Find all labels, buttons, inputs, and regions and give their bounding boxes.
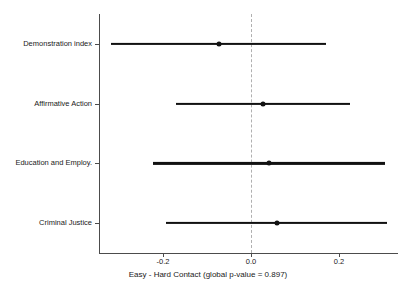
x-axis-spine [99, 253, 398, 254]
y-axis-tick [95, 223, 99, 224]
x-axis-tick-label: 0.2 [334, 258, 344, 266]
y-axis-tick [95, 44, 99, 45]
y-axis-category-label: Education and Employ. [15, 159, 92, 167]
point-estimate-marker [275, 221, 280, 226]
y-axis-category-label: Affirmative Action [34, 100, 92, 108]
y-axis-category-label: Criminal Justice [39, 219, 92, 227]
y-axis-tick [95, 104, 99, 105]
point-estimate-marker [217, 41, 222, 46]
x-axis-tick-label: -0.2 [157, 258, 170, 266]
y-axis-tick [95, 163, 99, 164]
y-axis-category-label: Demonstration index [23, 40, 92, 48]
plot-area [99, 14, 398, 253]
zero-reference-line [251, 14, 252, 253]
point-estimate-marker [260, 101, 265, 106]
x-axis-title: Easy - Hard Contact (global p-value = 0.… [0, 271, 416, 279]
coefficient-plot-figure: Easy - Hard Contact (global p-value = 0.… [0, 0, 416, 292]
point-estimate-marker [266, 161, 271, 166]
x-axis-tick-label: 0.0 [246, 258, 256, 266]
